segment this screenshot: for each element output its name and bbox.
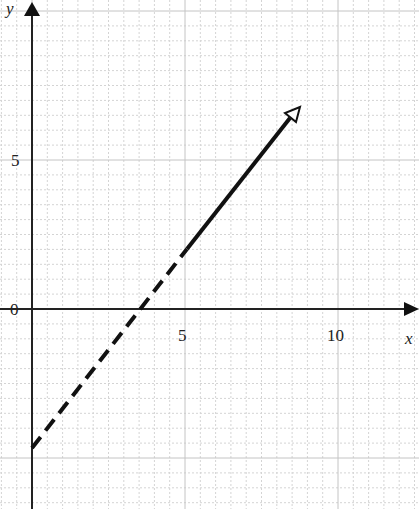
line-graph: y x 0 5 5 10 [0, 0, 419, 509]
y-tick-5: 5 [11, 151, 20, 170]
solid-ray [187, 118, 290, 249]
x-tick-10: 10 [327, 326, 344, 345]
y-axis-label: y [4, 0, 14, 18]
x-axis-arrow-icon [404, 302, 419, 316]
x-axis-label: x [404, 329, 413, 348]
origin-label: 0 [10, 300, 19, 319]
grid [0, 0, 419, 509]
x-tick-5: 5 [178, 326, 187, 345]
y-axis-arrow-icon [24, 2, 40, 16]
